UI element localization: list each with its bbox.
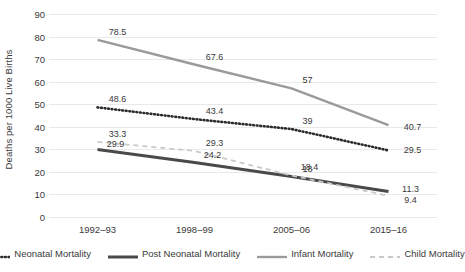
data-point-label: 57 bbox=[302, 75, 312, 85]
legend-item[interactable]: Neonatal Mortality bbox=[0, 248, 91, 259]
gridline bbox=[49, 217, 437, 218]
data-point-label: 24.2 bbox=[204, 150, 222, 160]
legend-item[interactable]: Post Neonatal Mortality bbox=[108, 248, 240, 259]
legend-divider bbox=[0, 240, 445, 241]
legend-swatch bbox=[108, 248, 138, 258]
data-point-label: 29.3 bbox=[206, 138, 224, 148]
legend-item[interactable]: Child Mortality bbox=[370, 248, 464, 259]
plot-area: 48.643.43929.529.924.21811.378.567.65740… bbox=[49, 14, 437, 217]
legend-item[interactable]: Infant Mortality bbox=[257, 248, 353, 259]
data-point-label: 39 bbox=[302, 116, 312, 126]
x-axis-tick-label: 1992–93 bbox=[79, 224, 116, 235]
x-axis-tick-label: 2015–16 bbox=[370, 224, 407, 235]
legend-swatch bbox=[257, 248, 287, 258]
y-axis-tick-label: 30 bbox=[5, 144, 45, 155]
legend-label: Infant Mortality bbox=[291, 248, 353, 259]
data-point-label: 67.6 bbox=[206, 52, 224, 62]
y-axis-tick-label: 0 bbox=[5, 212, 45, 223]
y-axis-tick-label: 80 bbox=[5, 31, 45, 42]
chart-legend: Neonatal MortalityPost Neonatal Mortalit… bbox=[0, 243, 445, 263]
data-point-label: 33.3 bbox=[109, 129, 127, 139]
y-axis-tick-labels: 0102030405060708090 bbox=[0, 14, 45, 217]
y-axis-tick-label: 90 bbox=[5, 9, 45, 20]
y-axis-tick-label: 70 bbox=[5, 54, 45, 65]
y-axis-tick-label: 20 bbox=[5, 166, 45, 177]
y-axis-tick-label: 40 bbox=[5, 121, 45, 132]
x-axis-tick-label: 1998–99 bbox=[176, 224, 213, 235]
legend-swatch bbox=[0, 248, 10, 258]
y-axis-tick-label: 50 bbox=[5, 99, 45, 110]
data-point-label: 9.4 bbox=[404, 195, 417, 205]
x-axis-tick-label: 2005–06 bbox=[273, 224, 310, 235]
data-point-label: 18.4 bbox=[301, 162, 319, 172]
data-point-label: 78.5 bbox=[109, 27, 127, 37]
legend-swatch bbox=[370, 248, 400, 258]
x-axis-tick-labels: 1992–931998–992005–062015–16 bbox=[49, 224, 437, 238]
data-point-label: 43.4 bbox=[206, 106, 224, 116]
data-point-label: 29.5 bbox=[404, 145, 422, 155]
data-point-label: 11.3 bbox=[402, 184, 419, 194]
y-axis-tick-label: 10 bbox=[5, 189, 45, 200]
data-point-label: 48.6 bbox=[109, 94, 127, 104]
legend-label: Post Neonatal Mortality bbox=[142, 248, 240, 259]
legend-label: Child Mortality bbox=[404, 248, 464, 259]
data-point-label: 40.7 bbox=[404, 122, 422, 132]
legend-label: Neonatal Mortality bbox=[14, 248, 91, 259]
y-axis-tick-label: 60 bbox=[5, 76, 45, 87]
data-point-label: 29.9 bbox=[107, 139, 125, 149]
data-point-labels: 48.643.43929.529.924.21811.378.567.65740… bbox=[49, 14, 437, 217]
